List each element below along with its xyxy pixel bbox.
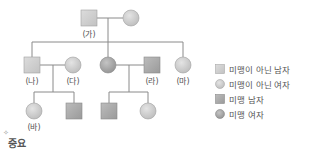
- important-label: 중요: [8, 138, 26, 149]
- label-ga: (가): [82, 28, 95, 39]
- legend-item-affected-male: 미맹 남자: [215, 91, 290, 106]
- individual-ra: [144, 57, 160, 73]
- legend-label: 미맹이 아닌 남자: [229, 63, 290, 75]
- legend: 미맹이 아닌 남자 미맹이 아닌 여자 미맹 남자 미맹 여자: [215, 61, 290, 121]
- circle-dark-icon: [215, 109, 225, 119]
- individual-ga-male: [81, 10, 97, 26]
- legend-item-unaffected-female: 미맹이 아닌 여자: [215, 76, 290, 91]
- generation-3: [26, 103, 156, 119]
- individual-na-son: [66, 103, 82, 119]
- individual-ma: [175, 57, 191, 73]
- individual-da: [65, 57, 81, 73]
- legend-item-unaffected-male: 미맹이 아닌 남자: [215, 61, 290, 76]
- label-ma: (마): [176, 75, 189, 86]
- circle-light-icon: [215, 79, 225, 89]
- individual-middle-female: [100, 57, 116, 73]
- label-ra: (라): [145, 75, 158, 86]
- legend-label: 미맹 남자: [229, 93, 264, 105]
- legend-label: 미맹 여자: [229, 108, 264, 120]
- individual-middle-son: [101, 103, 117, 119]
- legend-label: 미맹이 아닌 여자: [229, 78, 290, 90]
- individual-na: [24, 57, 40, 73]
- individual-ga-female: [123, 10, 139, 26]
- square-light-icon: [215, 64, 225, 74]
- individual-middle-daughter: [140, 103, 156, 119]
- individual-ba: [26, 103, 42, 119]
- label-ba: (바): [27, 121, 40, 132]
- legend-item-affected-female: 미맹 여자: [215, 106, 290, 121]
- sparkle-icon: ✧: [3, 129, 9, 137]
- label-da: (다): [66, 75, 79, 86]
- important-tag: ✧ 중요: [8, 135, 26, 150]
- label-na: (나): [25, 75, 38, 86]
- square-dark-icon: [215, 94, 225, 104]
